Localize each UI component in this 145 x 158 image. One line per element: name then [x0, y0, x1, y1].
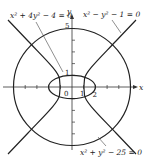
y-tick-5-label: 5	[65, 22, 69, 30]
y-axis-label: y	[66, 7, 72, 16]
x-tick-2-label: 2	[93, 91, 97, 99]
x-axis-arrow-icon	[133, 85, 138, 89]
circle-leader-line	[98, 137, 106, 146]
origin-label: 0	[64, 90, 68, 98]
x-tick-1-label: 1	[80, 90, 84, 98]
y-tick-1-label: 1	[65, 69, 69, 77]
hyperbola-equation-label: x² − y² − 1 = 0	[83, 10, 140, 19]
hyperbola-leader-line	[112, 20, 121, 33]
circle-equation-label: x² + y² − 25 = 0	[80, 148, 142, 157]
x-axis-label: x	[139, 83, 144, 92]
ellipse-equation-label: x² + 4y² − 4 = 0	[10, 11, 72, 20]
conic-sections-diagram: x² + 4y² − 4 = 0 x² − y² − 1 = 0 x² + y²…	[0, 0, 145, 158]
